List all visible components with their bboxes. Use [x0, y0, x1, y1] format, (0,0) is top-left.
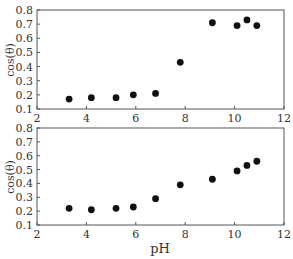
x-tick-label: 6	[132, 228, 139, 241]
data-point	[209, 19, 216, 26]
x-tick-label: 12	[277, 112, 291, 125]
data-point	[244, 162, 251, 169]
x-tick-label: 10	[228, 112, 242, 125]
data-point	[88, 94, 95, 101]
data-point	[66, 96, 73, 103]
data-point	[234, 22, 241, 29]
x-axis-label: pH	[150, 241, 170, 256]
data-point	[244, 17, 251, 24]
data-point	[152, 195, 159, 202]
data-point	[253, 22, 260, 29]
x-tick-label: 8	[182, 228, 189, 241]
plot-frame	[37, 10, 284, 109]
x-tick-label: 10	[228, 228, 242, 241]
data-point	[152, 90, 159, 97]
bottom-y-axis-label: cos(θ)	[4, 160, 17, 194]
plot-frame	[37, 128, 284, 225]
y-tick-label: 0.2	[16, 205, 34, 218]
y-tick-label: 0.5	[16, 46, 34, 59]
x-tick-label: 2	[34, 228, 41, 241]
data-point	[130, 204, 137, 211]
data-point	[66, 205, 73, 212]
y-tick-label: 0.4	[16, 177, 34, 190]
ph-cos-theta-chart: 0.10.20.30.40.50.60.70.824681012 0.10.20…	[0, 0, 293, 259]
y-tick-label: 0.7	[16, 18, 34, 31]
data-point	[177, 59, 184, 66]
y-tick-label: 0.3	[16, 75, 34, 88]
data-point	[253, 158, 260, 165]
data-point	[113, 94, 120, 101]
data-point	[209, 176, 216, 183]
y-tick-label: 0.8	[16, 4, 34, 17]
x-tick-label: 8	[182, 112, 189, 125]
y-tick-label: 0.1	[16, 103, 34, 116]
y-tick-label: 0.3	[16, 191, 34, 204]
bottom-scatter-panel: 0.10.20.30.40.50.60.70.824681012	[16, 122, 292, 241]
data-point	[234, 168, 241, 175]
y-tick-label: 0.6	[16, 150, 34, 163]
y-tick-label: 0.6	[16, 32, 34, 45]
x-tick-label: 2	[34, 112, 41, 125]
y-tick-label: 0.8	[16, 122, 34, 135]
y-tick-label: 0.1	[16, 219, 34, 232]
y-tick-label: 0.2	[16, 89, 34, 102]
data-point	[88, 206, 95, 213]
x-tick-label: 6	[132, 112, 139, 125]
y-tick-label: 0.4	[16, 61, 34, 74]
top-y-axis-label: cos(θ)	[4, 43, 17, 77]
top-scatter-panel: 0.10.20.30.40.50.60.70.824681012	[16, 4, 292, 125]
y-tick-label: 0.7	[16, 136, 34, 149]
x-tick-label: 4	[83, 112, 90, 125]
data-point	[113, 205, 120, 212]
y-tick-label: 0.5	[16, 164, 34, 177]
x-tick-label: 12	[277, 228, 291, 241]
data-point	[130, 91, 137, 98]
x-tick-label: 4	[83, 228, 90, 241]
data-point	[177, 181, 184, 188]
